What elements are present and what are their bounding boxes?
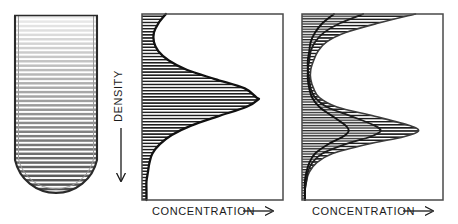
tube-stripe — [14, 117, 98, 119]
tube-stripe — [14, 166, 98, 168]
tube-stripe — [14, 139, 98, 141]
tube-stripe — [14, 148, 98, 150]
centrifuge-tube-panel — [14, 15, 98, 203]
tube-stripe — [14, 25, 98, 27]
tube-stripe — [14, 60, 98, 62]
tube-stripe — [14, 42, 98, 44]
tube-stripe — [14, 100, 98, 102]
tube-stripe — [14, 131, 98, 133]
tube-stripe — [14, 16, 98, 18]
tube-stripe — [14, 113, 98, 115]
tube-stripe — [14, 86, 98, 88]
tube-stripe — [14, 38, 98, 40]
multi-band-x-axis-label: CONCENTRATION — [312, 205, 415, 217]
tube-stripe — [14, 153, 98, 155]
tube-stripe — [14, 104, 98, 106]
tube-stripe — [14, 157, 98, 159]
tube-stripe — [14, 135, 98, 137]
tube-stripe — [14, 95, 98, 97]
tube-stripe — [14, 29, 98, 31]
density-gradient-figure: DENSITY CONCENTRATION — [0, 0, 458, 224]
single-band-x-axis-label: CONCENTRATION — [152, 205, 255, 217]
tube-stripe — [14, 122, 98, 124]
tube-stripe — [14, 56, 98, 58]
tube-stripe — [14, 20, 98, 22]
tube-stripe — [14, 78, 98, 80]
density-axis-label: DENSITY — [112, 70, 124, 122]
tube-stripe — [14, 82, 98, 84]
tube-stripe — [14, 69, 98, 71]
tube-stripe — [14, 91, 98, 93]
tube-stripe — [14, 64, 98, 66]
tube-stripe — [14, 34, 98, 36]
tube-stripe — [14, 161, 98, 163]
tube-stripe — [14, 51, 98, 53]
tube-stripe — [14, 126, 98, 128]
tube-stripe — [14, 73, 98, 75]
tube-stripe — [14, 144, 98, 146]
tube-stripe — [14, 47, 98, 49]
single-band-panel: CONCENTRATION — [140, 12, 288, 217]
tube-stripe — [14, 109, 98, 111]
tube-stripe — [14, 170, 98, 172]
multi-band-panel: CONCENTRATION — [300, 12, 448, 217]
